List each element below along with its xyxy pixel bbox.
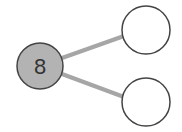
connector-top [62,36,124,58]
part-circle-top[interactable] [122,6,170,54]
part-circle-bottom[interactable] [122,78,170,126]
number-bond-diagram: 8 [0,0,182,132]
whole-value: 8 [34,54,46,79]
connector-bottom [62,74,124,97]
